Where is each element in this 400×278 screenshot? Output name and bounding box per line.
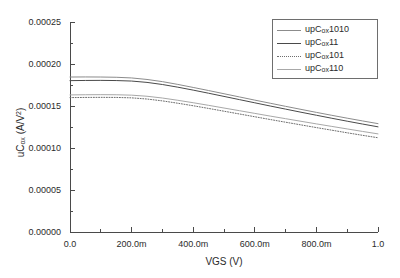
x-axis-title: VGS (V) bbox=[205, 256, 242, 267]
legend-label-suffix: 1010 bbox=[329, 24, 349, 34]
legend-label-prefix: upC bbox=[305, 50, 322, 60]
legend-item-upCox101[interactable]: upCox101 bbox=[277, 49, 373, 62]
series-line-upCox11 bbox=[70, 80, 378, 126]
y-tick-label-2: 0.00010 bbox=[0, 143, 61, 153]
legend-label-suffix: 101 bbox=[329, 50, 344, 60]
legend-item-upCox110[interactable]: upCox110 bbox=[277, 62, 373, 75]
legend-item-upCox11[interactable]: upCox11 bbox=[277, 36, 373, 49]
legend-label-prefix: upC bbox=[305, 63, 322, 73]
x-tick-label-5: 1.0 bbox=[372, 239, 385, 249]
legend-swatch-upCox1010 bbox=[277, 25, 301, 35]
legend-label-suffix: 11 bbox=[329, 37, 338, 47]
legend-label-subscript: ox bbox=[322, 40, 329, 47]
y-tick-label-0: 0.00000 bbox=[0, 227, 61, 237]
chart-figure: 0.000000.000050.000100.000150.000200.000… bbox=[0, 0, 400, 278]
y-tick-label-3: 0.00015 bbox=[0, 101, 61, 111]
series-line-upCox110 bbox=[70, 95, 378, 134]
legend-label-prefix: upC bbox=[305, 37, 322, 47]
legend-label-upCox101: upCox101 bbox=[305, 50, 344, 62]
legend-label-prefix: upC bbox=[305, 24, 322, 34]
y-axis-title-mid: (A/V bbox=[15, 115, 26, 137]
legend-swatch-upCox110 bbox=[277, 64, 301, 74]
x-tick-label-2: 400.0m bbox=[178, 239, 208, 249]
series-line-upCox1010 bbox=[70, 77, 378, 124]
y-tick-label-4: 0.00020 bbox=[0, 59, 61, 69]
legend-label-upCox110: upCox110 bbox=[305, 63, 343, 75]
legend-label-upCox11: upCox11 bbox=[305, 37, 338, 49]
series-line-upCox101 bbox=[70, 97, 378, 137]
y-axis-title-suffix: ) bbox=[15, 108, 26, 111]
legend-item-upCox1010[interactable]: upCox1010 bbox=[277, 23, 373, 36]
legend-label-suffix: 110 bbox=[329, 63, 343, 73]
legend-label-upCox1010: upCox1010 bbox=[305, 24, 349, 36]
y-axis-title-prefix: uC bbox=[15, 145, 26, 158]
x-tick-label-3: 600.0m bbox=[240, 239, 270, 249]
legend-label-subscript: ox bbox=[322, 66, 329, 73]
y-tick-label-1: 0.00005 bbox=[0, 185, 61, 195]
chart-legend[interactable]: upCox1010upCox11upCox101upCox110 bbox=[272, 19, 378, 79]
legend-label-subscript: ox bbox=[322, 27, 329, 34]
x-tick-label-4: 800.0m bbox=[301, 239, 331, 249]
legend-swatch-upCox101 bbox=[277, 51, 301, 61]
data-series-group bbox=[70, 77, 378, 138]
y-tick-label-5: 0.00025 bbox=[0, 17, 61, 27]
x-tick-label-1: 200.0m bbox=[117, 239, 147, 249]
y-axis-title-superscript: 2 bbox=[15, 111, 22, 115]
x-tick-label-0: 0.0 bbox=[64, 239, 77, 249]
y-axis-title: uCox (A/V2) bbox=[15, 88, 26, 178]
y-axis-title-subscript: ox bbox=[19, 137, 26, 144]
legend-label-subscript: ox bbox=[322, 53, 329, 60]
legend-swatch-upCox11 bbox=[277, 38, 301, 48]
